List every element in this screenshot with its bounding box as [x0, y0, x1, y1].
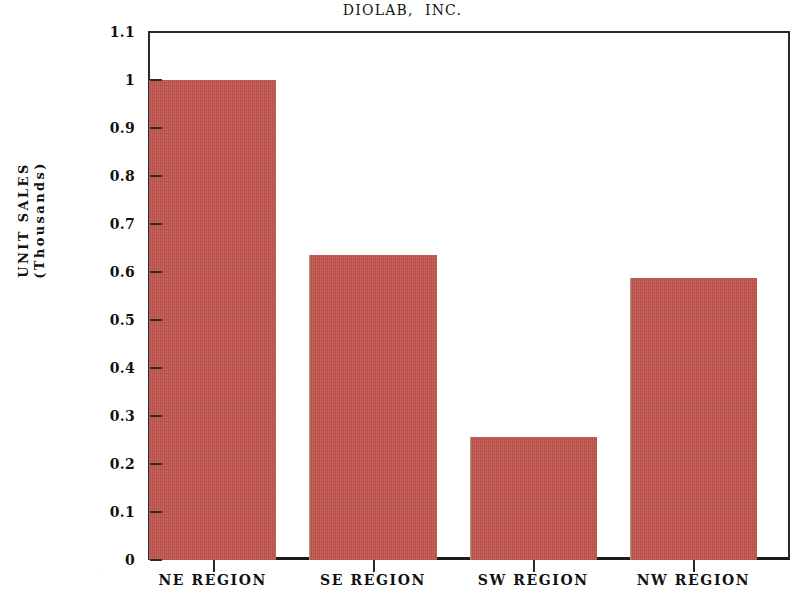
y-tick-label: 0.1 — [20, 504, 135, 520]
y-tick-label: 0.9 — [20, 120, 135, 136]
bar-series — [149, 32, 790, 560]
y-tick-mark — [150, 415, 162, 417]
y-tick-label: 0.6 — [20, 264, 135, 280]
y-tick-label: 0.4 — [20, 360, 135, 376]
bar-ne-region — [149, 80, 276, 560]
y-tick-label: 1.1 — [20, 24, 135, 40]
y-tick-label: 0.5 — [20, 312, 135, 328]
y-tick-mark — [150, 175, 162, 177]
x-tick-mark — [693, 560, 695, 572]
x-tick-label-sw-region: SW REGION — [443, 572, 623, 588]
y-tick-label: 0.2 — [20, 456, 135, 472]
y-tick-mark — [150, 31, 162, 33]
y-tick-label: 0.8 — [20, 168, 135, 184]
y-tick-mark — [150, 271, 162, 273]
x-tick-mark — [213, 560, 215, 572]
y-tick-label: 0.3 — [20, 408, 135, 424]
y-tick-label: 0.7 — [20, 216, 135, 232]
x-tick-label-ne-region: NE REGION — [123, 572, 303, 588]
bar-sw-region — [470, 437, 597, 560]
x-tick-mark — [373, 560, 375, 572]
x-tick-label-nw-region: NW REGION — [603, 572, 783, 588]
x-tick-label-se-region: SE REGION — [283, 572, 463, 588]
bar-se-region — [309, 255, 436, 560]
y-tick-mark — [150, 223, 162, 225]
y-tick-mark — [150, 511, 162, 513]
bar-chart: DIOLAB, INC. UNIT SALES (Thousands) 00.1… — [0, 0, 805, 599]
y-tick-mark — [150, 367, 162, 369]
bar-nw-region — [630, 278, 757, 560]
y-tick-mark — [150, 79, 162, 81]
y-tick-label: 0 — [20, 552, 135, 568]
y-tick-mark — [150, 559, 162, 561]
y-tick-mark — [150, 127, 162, 129]
x-tick-mark — [533, 560, 535, 572]
y-tick-label: 1 — [20, 72, 135, 88]
y-tick-mark — [150, 463, 162, 465]
chart-title: DIOLAB, INC. — [0, 2, 805, 18]
y-tick-mark — [150, 319, 162, 321]
